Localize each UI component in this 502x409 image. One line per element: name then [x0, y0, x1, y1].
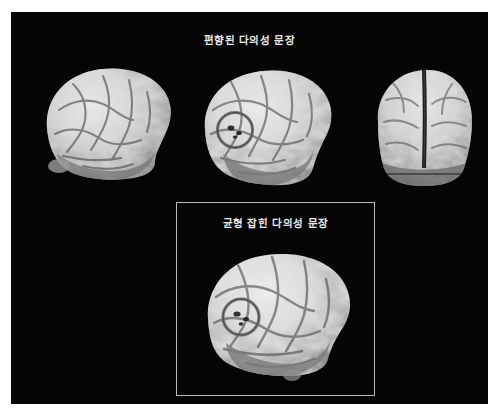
figure-root: 편향된 다의성 문장 [0, 0, 502, 409]
sub-panel: 균형 잡힌 다의성 문장 [176, 202, 375, 396]
brain-lateral-mid [189, 58, 341, 198]
brain-lateral-mid-render [189, 58, 341, 198]
brain-lateral-left [29, 54, 181, 194]
brain-lateral-bottom-render [192, 241, 364, 389]
brain-anterior-right [356, 56, 488, 198]
brain-anterior-right-render [356, 56, 488, 198]
brainstem [48, 159, 70, 173]
brain-lateral-bottom [192, 241, 364, 389]
top-condition-title: 편향된 다의성 문장 [11, 32, 488, 47]
figure-panel: 편향된 다의성 문장 [11, 12, 488, 404]
sub-panel-condition-title: 균형 잡힌 다의성 문장 [177, 215, 374, 230]
brain-lateral-left-render [29, 54, 181, 194]
brainstem [283, 369, 301, 381]
